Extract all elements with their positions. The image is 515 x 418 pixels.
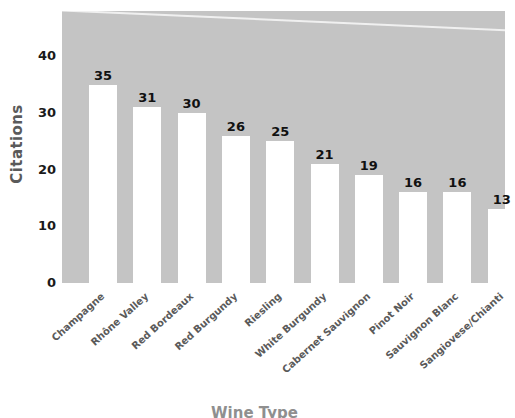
bar-value-label: 19: [349, 159, 389, 172]
x-tick-label: Sangiovese/Chianti: [349, 291, 506, 418]
y-tick-label: 10: [22, 219, 56, 232]
bar-value-label: 31: [127, 91, 167, 104]
bar[interactable]: [399, 192, 427, 283]
bar-value-label: 16: [393, 176, 433, 189]
y-tick-label: 30: [22, 106, 56, 119]
bar[interactable]: [488, 209, 505, 283]
bar[interactable]: [266, 141, 294, 283]
plot-area: [62, 11, 505, 283]
y-tick-label: 20: [22, 163, 56, 176]
bar[interactable]: [311, 164, 339, 283]
y-tick-label: 40: [22, 49, 56, 62]
bar[interactable]: [133, 107, 161, 283]
scan-line-artifact: [62, 11, 505, 32]
bar-value-label: 25: [260, 125, 300, 138]
bar-value-label: 13: [482, 193, 515, 206]
bar[interactable]: [355, 175, 383, 283]
bar[interactable]: [222, 136, 250, 283]
bar[interactable]: [443, 192, 471, 283]
x-axis-title: Wine Type: [0, 405, 509, 418]
bar-value-label: 16: [437, 176, 477, 189]
bar-value-label: 30: [172, 97, 212, 110]
bar[interactable]: [178, 113, 206, 283]
bar[interactable]: [89, 85, 117, 283]
bar-value-label: 26: [216, 120, 256, 133]
bar-value-label: 35: [83, 69, 123, 82]
bar-value-label: 21: [305, 148, 345, 161]
x-axis-tick-labels: ChampagneRhône ValleyRed BordeauxRed Bur…: [0, 283, 509, 393]
